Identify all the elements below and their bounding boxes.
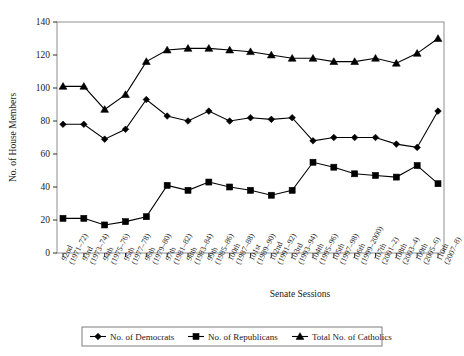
data-point xyxy=(268,116,275,123)
y-tick-label: 20 xyxy=(41,215,51,225)
data-point xyxy=(414,163,420,169)
series-line xyxy=(63,162,438,225)
y-tick-label: 140 xyxy=(36,17,51,27)
data-point xyxy=(413,50,421,57)
data-point xyxy=(373,172,379,178)
series-2 xyxy=(60,159,441,228)
data-point xyxy=(164,182,170,188)
y-tick-label: 0 xyxy=(45,248,50,258)
y-tick-label: 80 xyxy=(41,116,51,126)
data-point xyxy=(122,91,130,98)
x-tick-label: 110th(2007–8) xyxy=(434,232,463,266)
y-axis-title: No. of House Members xyxy=(8,93,18,182)
series-1 xyxy=(60,96,442,150)
plot-frame xyxy=(57,22,444,253)
data-point xyxy=(435,108,442,115)
data-point xyxy=(310,159,316,165)
data-point xyxy=(143,214,149,220)
series-line xyxy=(63,100,438,148)
data-point xyxy=(393,141,400,148)
data-point xyxy=(372,55,380,62)
chart-container: 020406080100120140No. of House Members92… xyxy=(0,0,464,356)
data-point xyxy=(351,134,358,141)
data-point xyxy=(142,58,150,65)
legend-label: Total No. of Catholics xyxy=(312,332,392,342)
data-point xyxy=(434,35,442,42)
data-point xyxy=(185,118,192,125)
series-3 xyxy=(59,35,442,113)
data-point xyxy=(372,134,379,141)
data-point xyxy=(206,179,212,185)
data-point xyxy=(185,187,191,193)
data-point xyxy=(331,134,338,141)
legend-marker xyxy=(193,334,199,340)
y-tick-label: 120 xyxy=(36,50,51,60)
data-point xyxy=(268,192,274,198)
data-point xyxy=(393,174,399,180)
legend: No. of DemocratsNo. of RepublicansTotal … xyxy=(82,327,392,346)
data-point xyxy=(226,118,233,125)
data-point xyxy=(123,219,129,225)
legend-label: No. of Republicans xyxy=(208,332,278,342)
data-point xyxy=(248,187,254,193)
data-point xyxy=(122,126,129,133)
data-point xyxy=(81,215,87,221)
line-chart: 020406080100120140No. of House Members92… xyxy=(0,0,464,356)
data-point xyxy=(352,171,358,177)
x-axis-title: Senate Sessions xyxy=(270,289,331,299)
data-point xyxy=(331,164,337,170)
data-point xyxy=(247,114,254,121)
data-point xyxy=(289,187,295,193)
data-point xyxy=(435,181,441,187)
data-point xyxy=(227,184,233,190)
data-point xyxy=(60,121,67,128)
y-tick-label: 40 xyxy=(41,182,51,192)
data-point xyxy=(414,144,421,151)
data-point xyxy=(102,222,108,228)
y-tick-label: 100 xyxy=(36,83,51,93)
data-point xyxy=(206,108,213,115)
y-tick-label: 60 xyxy=(41,149,51,159)
legend-label: No. of Democrats xyxy=(110,332,175,342)
data-point xyxy=(60,215,66,221)
